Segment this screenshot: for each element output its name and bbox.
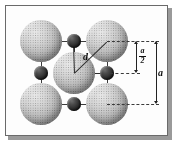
half-lattice-numerator: a (138, 47, 147, 55)
half-lattice-arrow-head-down (134, 70, 138, 73)
corner-atom-top-left (20, 20, 62, 62)
half-lattice-label: a 2 (138, 47, 147, 65)
half-lattice-denominator: 2 (138, 57, 147, 65)
crystal-structure-figure: d a 2 a (0, 0, 180, 150)
leader-line-middle (110, 73, 140, 74)
leader-line-bottom (107, 104, 159, 105)
edge-atom-bottom (67, 97, 81, 111)
lattice-dimension-line (156, 43, 157, 102)
bond-distance-label: d (83, 52, 88, 62)
edge-atom-top (67, 34, 81, 48)
half-lattice-dimension-line (136, 43, 137, 71)
corner-atom-bottom-left (20, 83, 62, 125)
edge-atom-left (34, 66, 48, 80)
lattice-arrow-head-down (154, 101, 158, 104)
lattice-parameter-label: a (158, 68, 163, 78)
